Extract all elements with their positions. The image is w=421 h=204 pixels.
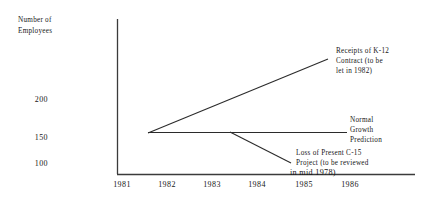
x-tick-label-1983: 1983 — [195, 180, 229, 189]
x-tick-label-1982: 1982 — [150, 180, 184, 189]
annotation-c15-loss-continued: in mid 1978) — [290, 168, 336, 177]
x-tick-label-1985: 1985 — [287, 180, 321, 189]
plot-area — [0, 0, 421, 204]
employment-forecast-chart: Number of Employees 200 150 100 Receipts… — [0, 0, 421, 204]
annotation-normal-growth: Normal Growth Prediction — [350, 115, 382, 146]
annotation-k12-receipts: Receipts of K-12 Contract (to be let in … — [336, 46, 389, 77]
x-tick-label-1984: 1984 — [240, 180, 274, 189]
series-line-k12-receipts — [148, 59, 328, 133]
annotation-c15-loss: Loss of Present C-15 Project (to be revi… — [296, 148, 369, 168]
series-line-c15-loss — [230, 132, 291, 163]
x-tick-label-1986: 1986 — [333, 180, 367, 189]
x-tick-label-1981: 1981 — [105, 180, 139, 189]
